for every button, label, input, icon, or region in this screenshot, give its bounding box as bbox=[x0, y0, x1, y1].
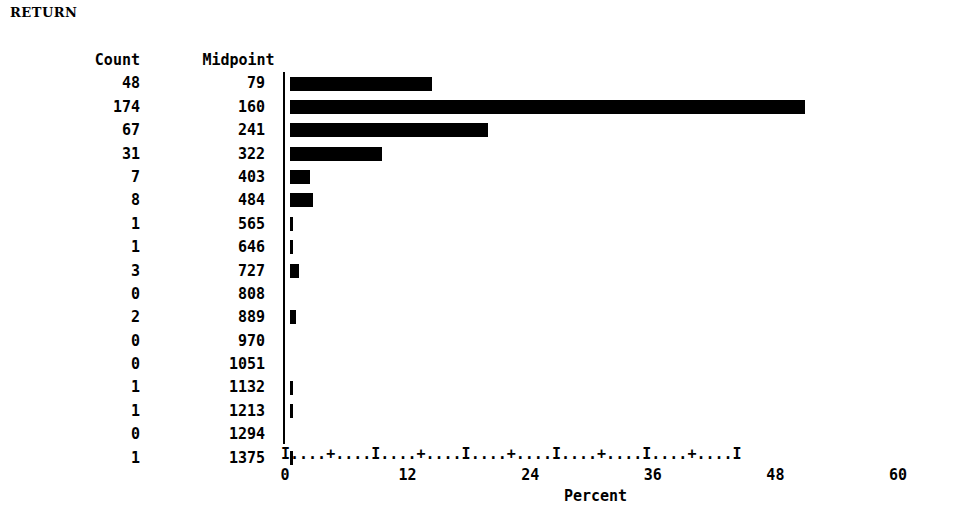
table-row: 31322 bbox=[0, 142, 283, 165]
cell-count: 0 bbox=[0, 283, 140, 306]
x-axis-ruler: I....+....I....+....I....+....I....+....… bbox=[281, 445, 742, 463]
cell-midpoint: 889 bbox=[140, 306, 265, 329]
cell-count: 1 bbox=[0, 236, 140, 259]
cell-count: 3 bbox=[0, 260, 140, 283]
column-header-count: Count bbox=[0, 49, 140, 72]
cell-midpoint: 970 bbox=[140, 330, 265, 353]
table-row: 1646 bbox=[0, 235, 283, 258]
cell-midpoint: 403 bbox=[140, 166, 265, 189]
x-tick-48: 48 bbox=[766, 466, 784, 484]
cell-midpoint: 160 bbox=[140, 96, 265, 119]
bar bbox=[290, 217, 293, 231]
table-row: 11213 bbox=[0, 399, 283, 422]
table-row: 0808 bbox=[0, 282, 283, 305]
x-axis-tick-labels: 01224364860 bbox=[0, 466, 954, 486]
cell-count: 31 bbox=[0, 143, 140, 166]
cell-count: 67 bbox=[0, 119, 140, 142]
cell-midpoint: 565 bbox=[140, 213, 265, 236]
cell-count: 174 bbox=[0, 96, 140, 119]
table-row: 0970 bbox=[0, 329, 283, 352]
cell-midpoint: 79 bbox=[140, 72, 265, 95]
x-tick-36: 36 bbox=[644, 466, 662, 484]
bar bbox=[290, 170, 310, 184]
cell-count: 8 bbox=[0, 189, 140, 212]
cell-midpoint: 484 bbox=[140, 189, 265, 212]
cell-midpoint: 1132 bbox=[140, 376, 265, 399]
cell-midpoint: 241 bbox=[140, 119, 265, 142]
bar bbox=[290, 147, 382, 161]
cell-count: 7 bbox=[0, 166, 140, 189]
table-row: 67241 bbox=[0, 118, 283, 141]
cell-count: 2 bbox=[0, 306, 140, 329]
cell-midpoint: 322 bbox=[140, 143, 265, 166]
cell-count: 0 bbox=[0, 423, 140, 446]
x-tick-60: 60 bbox=[889, 466, 907, 484]
bar bbox=[290, 240, 293, 254]
page-title: RETURN bbox=[10, 5, 77, 20]
table-header-row: Count Midpoint bbox=[0, 48, 283, 71]
bar bbox=[290, 264, 299, 278]
table-row: 01051 bbox=[0, 352, 283, 375]
table-row: 01294 bbox=[0, 422, 283, 445]
x-axis-title: Percent bbox=[564, 487, 627, 505]
cell-count: 0 bbox=[0, 353, 140, 376]
x-tick-12: 12 bbox=[399, 466, 417, 484]
table-row: 3727 bbox=[0, 259, 283, 282]
cell-midpoint: 808 bbox=[140, 283, 265, 306]
cell-midpoint: 727 bbox=[140, 260, 265, 283]
x-tick-24: 24 bbox=[521, 466, 539, 484]
table-row: 4879 bbox=[0, 71, 283, 94]
y-axis-line bbox=[283, 72, 285, 444]
cell-midpoint: 1213 bbox=[140, 400, 265, 423]
bar bbox=[290, 77, 432, 91]
cell-count: 0 bbox=[0, 330, 140, 353]
plot-area bbox=[283, 72, 923, 444]
table-row: 7403 bbox=[0, 165, 283, 188]
x-tick-0: 0 bbox=[280, 466, 289, 484]
bar bbox=[290, 404, 293, 418]
cell-midpoint: 1294 bbox=[140, 423, 265, 446]
bar bbox=[290, 381, 293, 395]
column-header-midpoint: Midpoint bbox=[150, 49, 275, 72]
cell-midpoint: 646 bbox=[140, 236, 265, 259]
cell-count: 1 bbox=[0, 213, 140, 236]
bar bbox=[290, 123, 488, 137]
cell-midpoint: 1051 bbox=[140, 353, 265, 376]
cell-count: 1 bbox=[0, 376, 140, 399]
cell-count: 48 bbox=[0, 72, 140, 95]
table-row: 8484 bbox=[0, 188, 283, 211]
table-row: 11132 bbox=[0, 375, 283, 398]
cell-count: 1 bbox=[0, 400, 140, 423]
table-row: 2889 bbox=[0, 305, 283, 328]
bar bbox=[290, 310, 296, 324]
table-row: 174160 bbox=[0, 95, 283, 118]
table-row: 1565 bbox=[0, 212, 283, 235]
histogram-table: Count Midpoint 4879174160672413132274038… bbox=[0, 48, 283, 469]
bar bbox=[290, 100, 805, 114]
bar bbox=[290, 193, 313, 207]
